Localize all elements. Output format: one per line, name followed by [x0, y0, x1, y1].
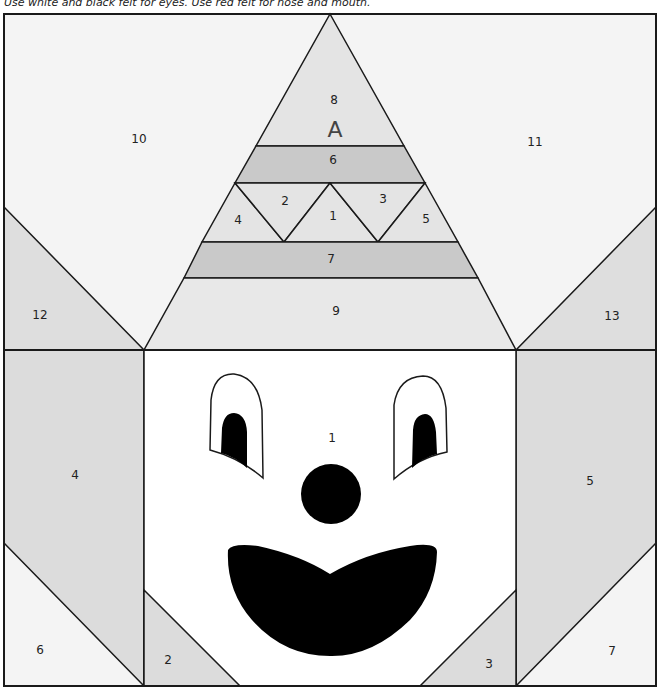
piece-a9 [144, 278, 516, 350]
label-a2: 2 [281, 194, 289, 208]
label-b3: 3 [485, 657, 493, 671]
label-a13: 13 [604, 309, 619, 323]
label-b2: 2 [164, 653, 172, 667]
label-b1: 1 [328, 431, 336, 445]
label-a9: 9 [332, 304, 340, 318]
nose [301, 464, 361, 524]
label-b7: 7 [608, 644, 616, 658]
label-b4: 4 [71, 468, 79, 482]
label-a8: 8 [330, 93, 338, 107]
label-section-a: A [327, 117, 342, 142]
label-a5: 5 [422, 212, 430, 226]
label-section-b: B [325, 544, 340, 569]
label-a10: 10 [131, 132, 146, 146]
label-a11: 11 [527, 135, 542, 149]
label-a12: 12 [32, 308, 47, 322]
label-a3: 3 [379, 192, 387, 206]
label-b5: 5 [586, 474, 594, 488]
clown-quilt-pattern: 8 A 6 2 3 4 1 5 7 9 10 11 12 13 1 B 4 5 … [0, 0, 661, 694]
label-b6: 6 [36, 643, 44, 657]
label-a4: 4 [234, 213, 242, 227]
label-a6: 6 [329, 153, 337, 167]
label-a7: 7 [327, 252, 335, 266]
label-a1: 1 [329, 209, 337, 223]
